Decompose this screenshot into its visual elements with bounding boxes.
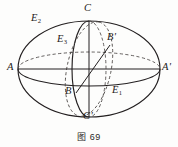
label-E2: E2 [31,13,41,24]
label-B: B [65,86,72,97]
label-B-prime: B' [107,32,116,43]
label-A-prime: A' [162,62,171,73]
label-C-prime: C' [83,111,93,122]
label-C: C [84,3,91,14]
caption-number: 69 [90,132,101,142]
label-E1: E1 [112,85,122,96]
caption-prefix: 图 [77,132,87,142]
figure-caption: 图 69 [0,130,178,143]
label-A: A [7,62,14,73]
label-E3: E3 [57,34,67,45]
ellipsoid-diagram [0,0,178,147]
figure-container: A A' C C' B B' E1 E2 E3 图 69 [0,0,178,147]
